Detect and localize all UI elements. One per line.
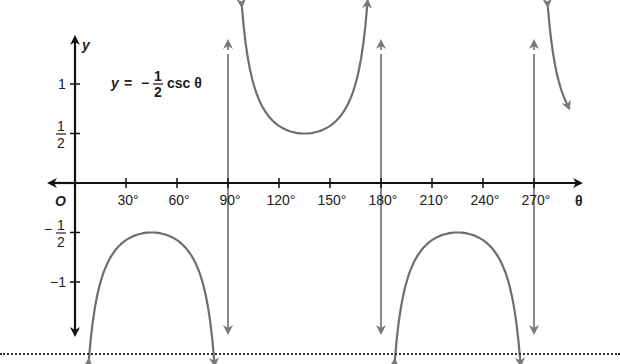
- svg-text:1: 1: [57, 118, 65, 134]
- x-tick-label: 150°: [318, 192, 347, 208]
- y-axis-label: y: [81, 37, 91, 53]
- x-tick-label: 210°: [420, 192, 449, 208]
- y-tick-1: 1: [58, 76, 66, 92]
- dotted-divider: [0, 353, 620, 355]
- x-tick-label: 120°: [267, 192, 296, 208]
- equation-minus: −: [141, 75, 149, 91]
- y-tick-neg1: −1: [50, 274, 66, 290]
- svg-text:2: 2: [57, 234, 65, 250]
- equation-func: csc θ: [167, 75, 202, 91]
- curve-branch-4: [548, 3, 568, 106]
- x-tick-label: 240°: [471, 192, 500, 208]
- equation-label: y = − 1 2 csc θ: [110, 68, 202, 100]
- csc-graph: 30°60°90°120°150°180°210°240°270°Oθy112−…: [0, 0, 620, 364]
- x-tick-label: 30°: [117, 192, 138, 208]
- equation-num: 1: [154, 68, 162, 84]
- x-tick-label: 180°: [369, 192, 398, 208]
- curve-branch-1: [89, 233, 215, 363]
- x-tick-label: 270°: [522, 192, 551, 208]
- svg-text:1: 1: [57, 217, 65, 233]
- origin-label: O: [55, 193, 66, 209]
- equation-lhs: y: [110, 75, 120, 91]
- curve-branch-3: [395, 233, 521, 363]
- x-tick-label: 60°: [168, 192, 189, 208]
- curve-branch-2: [242, 3, 368, 133]
- equation-den: 2: [154, 84, 162, 100]
- svg-text:2: 2: [57, 135, 65, 151]
- equation-eq: =: [124, 75, 132, 91]
- theta-axis-label: θ: [575, 193, 583, 209]
- svg-text:−: −: [44, 221, 52, 237]
- x-tick-label: 90°: [219, 192, 240, 208]
